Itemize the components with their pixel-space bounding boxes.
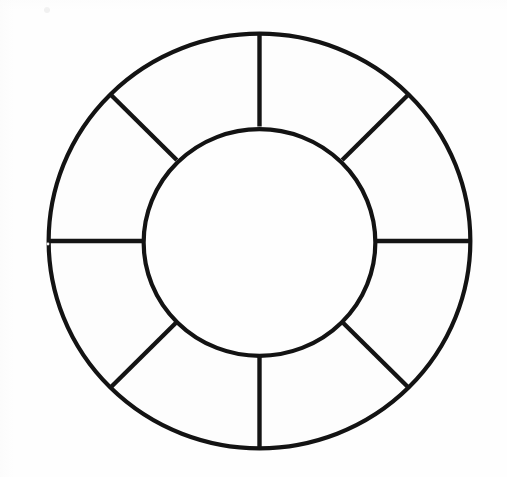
scan-speck — [47, 243, 50, 246]
figure-canvas — [0, 0, 507, 477]
scan-speck — [44, 7, 50, 13]
eight-sector-annulus-drawing — [0, 0, 507, 477]
